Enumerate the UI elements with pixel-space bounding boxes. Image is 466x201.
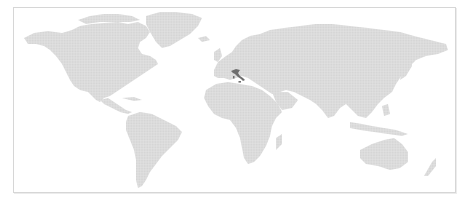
- greenland[interactable]: [146, 12, 202, 48]
- arctic-archipelago[interactable]: [78, 14, 140, 24]
- iceland[interactable]: [198, 36, 210, 42]
- indonesia[interactable]: [350, 122, 408, 136]
- world-map[interactable]: [0, 0, 466, 201]
- madagascar[interactable]: [276, 134, 282, 150]
- africa[interactable]: [204, 82, 282, 164]
- central-america[interactable]: [100, 98, 132, 114]
- philippines[interactable]: [382, 104, 390, 116]
- new-zealand[interactable]: [424, 158, 436, 176]
- australia[interactable]: [360, 138, 408, 170]
- sardinia[interactable]: [233, 76, 235, 79]
- caribbean[interactable]: [122, 97, 142, 101]
- north-america[interactable]: [24, 22, 158, 102]
- south-america[interactable]: [126, 112, 182, 188]
- sicily[interactable]: [239, 81, 242, 83]
